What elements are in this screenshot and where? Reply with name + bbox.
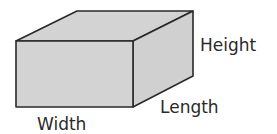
width-label: Width: [37, 114, 86, 134]
height-label: Height: [200, 35, 257, 55]
front-face: [16, 41, 133, 107]
rectangular-prism-diagram: Height Length Width: [0, 0, 277, 134]
length-label: Length: [160, 97, 219, 117]
